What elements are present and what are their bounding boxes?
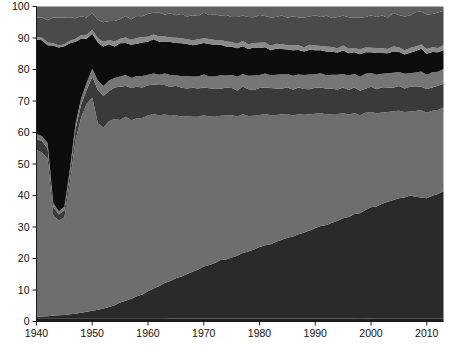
y-tick-label: 80 xyxy=(18,63,30,75)
x-tick-label: 1950 xyxy=(81,327,105,339)
y-tick-label: 40 xyxy=(18,189,30,201)
chart-figure: 0102030405060708090100 19401950196019701… xyxy=(0,0,450,347)
x-tick-label: 2000 xyxy=(359,327,383,339)
x-tick-label: 1960 xyxy=(136,327,160,339)
x-tick-label: 1990 xyxy=(304,327,328,339)
area-bands-group xyxy=(37,7,444,322)
x-tick-label: 1980 xyxy=(248,327,272,339)
y-tick-label: 50 xyxy=(18,158,30,170)
x-tick-label: 1970 xyxy=(192,327,216,339)
y-tick-label: 20 xyxy=(18,252,30,264)
x-tick-label: 1940 xyxy=(25,327,49,339)
x-tick-label: 2010 xyxy=(415,327,439,339)
y-tick-label: 10 xyxy=(18,284,30,296)
stacked-area-chart: 0102030405060708090100 19401950196019701… xyxy=(0,0,450,347)
y-tick-label: 100 xyxy=(12,0,30,12)
y-tick-label: 60 xyxy=(18,126,30,138)
y-tick-label: 70 xyxy=(18,95,30,107)
y-tick-label: 30 xyxy=(18,221,30,233)
y-tick-label: 0 xyxy=(24,315,30,327)
y-tick-label: 90 xyxy=(18,32,30,44)
